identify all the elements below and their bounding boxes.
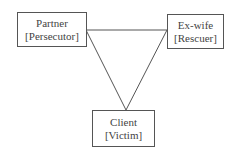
node-partner: Partner [Persecutor] — [17, 12, 87, 47]
node-client-name: Client — [110, 116, 137, 129]
node-partner-role: [Persecutor] — [25, 30, 79, 43]
edge-exwife-client — [126, 30, 167, 110]
node-client-role: [Victim] — [105, 129, 142, 142]
node-exwife: Ex-wife [Rescuer] — [167, 14, 224, 49]
edge-partner-client — [86, 30, 126, 110]
node-partner-name: Partner — [36, 17, 68, 30]
node-client: Client [Victim] — [92, 110, 155, 147]
node-exwife-name: Ex-wife — [178, 19, 213, 32]
node-exwife-role: [Rescuer] — [174, 32, 217, 45]
